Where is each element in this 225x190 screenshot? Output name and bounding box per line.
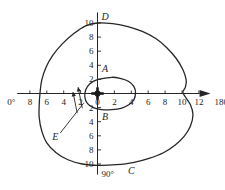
tick-x-2-3: 2 (78, 98, 83, 107)
axis-label-90-degrees: 90° (102, 170, 115, 179)
tick-y-bottom-10: 10 (85, 160, 94, 169)
label-A: A (102, 64, 108, 74)
axes-group (17, 12, 210, 174)
tick-y-top-2: 2 (89, 75, 94, 84)
axis-label-180-degrees: 180° (215, 98, 225, 107)
tick-y-bottom-2: 2 (89, 103, 94, 112)
tick-y-top-4: 4 (89, 61, 94, 70)
tick-x-12-10: 12 (194, 98, 203, 107)
annotation-leader-lines (60, 87, 84, 133)
tick-x-6-1: 6 (45, 98, 50, 107)
tick-y-top-8: 8 (89, 33, 94, 42)
tick-y-top-6: 6 (89, 47, 94, 56)
polar-pattern-figure: 0° 180° 90° 8642024681012 246810246810 A… (0, 0, 225, 190)
leader-line-E (60, 103, 84, 133)
tick-x-6-7: 6 (146, 98, 151, 107)
tick-y-bottom-4: 4 (89, 117, 94, 126)
tick-x-8-0: 8 (28, 98, 33, 107)
axis-label-0-degrees: 0° (7, 98, 15, 107)
tick-y-bottom-8: 8 (89, 145, 94, 154)
tick-x-8-8: 8 (163, 98, 168, 107)
label-C: C (128, 166, 135, 176)
plot-canvas (0, 0, 225, 190)
tick-x-10-9: 10 (178, 98, 187, 107)
tick-y-top-10: 10 (85, 19, 94, 28)
series-group (39, 23, 193, 166)
label-E: E (52, 132, 58, 142)
tick-y-bottom-6: 6 (89, 131, 94, 140)
tick-x-4-2: 4 (61, 98, 66, 107)
outer-pattern-curve (39, 23, 193, 166)
label-D: D (101, 12, 108, 22)
label-B: B (102, 112, 108, 122)
tick-x-2-5: 2 (112, 98, 117, 107)
tick-x-4-6: 4 (129, 98, 134, 107)
tick-x-0-4: 0 (95, 98, 100, 107)
